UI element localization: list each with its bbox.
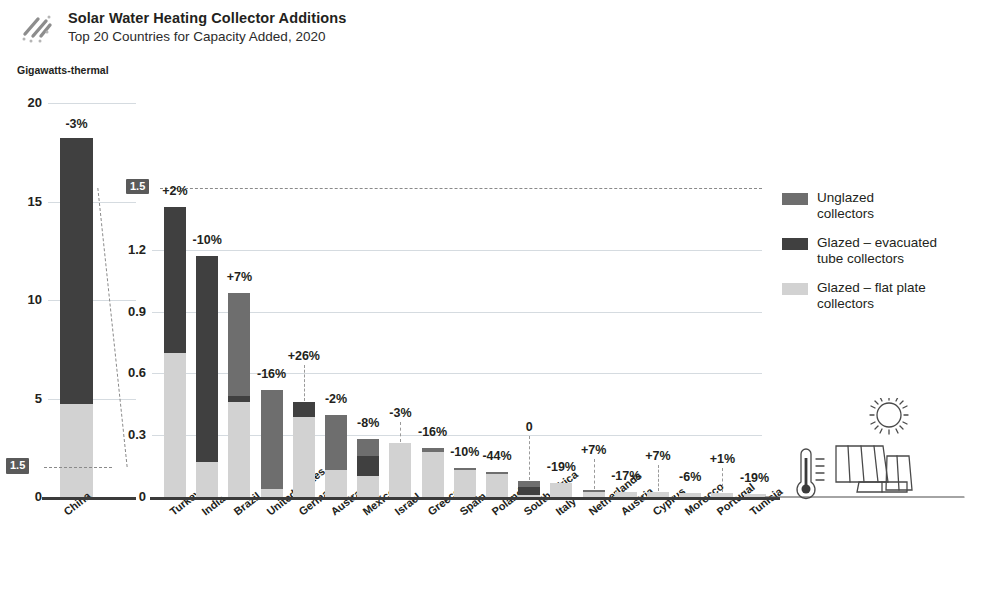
thermometer-icon bbox=[797, 449, 824, 498]
right-axis-tick-0.3: 0.3 bbox=[110, 428, 146, 441]
pct-label-china: -3% bbox=[56, 118, 97, 131]
bar-segment-unglazed bbox=[228, 293, 250, 396]
bar-segment-unglazed bbox=[486, 472, 508, 474]
right-gridline bbox=[152, 250, 762, 251]
legend-item-flatplate[interactable]: Glazed – flat platecollectors bbox=[782, 280, 977, 312]
bar-segment-evacuated bbox=[60, 138, 93, 404]
left-axis-tick-5: 5 bbox=[8, 392, 42, 405]
bar-segment-evacuated bbox=[196, 256, 218, 462]
pct-leader-line bbox=[722, 468, 723, 492]
bar-australia[interactable] bbox=[325, 415, 347, 497]
bar-turkey[interactable] bbox=[164, 207, 186, 497]
bar-spain[interactable] bbox=[454, 468, 476, 497]
bar-segment-flatplate bbox=[357, 476, 379, 497]
bar-israel[interactable] bbox=[389, 443, 411, 497]
bar-segment-flatplate bbox=[422, 452, 444, 497]
pct-label-cyprus: +7% bbox=[635, 450, 681, 463]
bar-segment-flatplate bbox=[389, 443, 411, 497]
bar-india[interactable] bbox=[196, 256, 218, 497]
right-axis-tick-1.2: 1.2 bbox=[110, 243, 146, 256]
bar-segment-unglazed bbox=[261, 390, 283, 489]
bar-segment-evacuated bbox=[518, 487, 540, 495]
bar-germany[interactable] bbox=[293, 402, 315, 497]
pct-label-morocco: -6% bbox=[667, 471, 713, 484]
legend-swatch-unglazed bbox=[782, 193, 808, 205]
right-top-dashed-line bbox=[160, 188, 762, 189]
pct-leader-line bbox=[529, 436, 530, 480]
pct-label-india: -10% bbox=[184, 234, 230, 247]
left-axis-tick-10: 10 bbox=[8, 293, 42, 306]
bar-greece[interactable] bbox=[422, 448, 444, 497]
bar-segment-evacuated bbox=[228, 396, 250, 402]
pct-leader-line bbox=[594, 459, 595, 489]
chart-legend: UnglazedcollectorsGlazed – evacuatedtube… bbox=[782, 190, 977, 325]
pct-label-turkey: +2% bbox=[152, 185, 198, 198]
bar-segment-flatplate bbox=[486, 474, 508, 497]
bar-segment-flatplate bbox=[325, 470, 347, 497]
left-axis-tick-0: 0 bbox=[8, 490, 42, 503]
bar-segment-flatplate bbox=[196, 462, 218, 497]
legend-swatch-evacuated bbox=[782, 238, 808, 250]
baseline-right bbox=[150, 497, 780, 500]
bar-segment-flatplate bbox=[228, 402, 250, 497]
bar-segment-evacuated bbox=[164, 207, 186, 353]
pct-label-israel: -3% bbox=[377, 407, 423, 420]
pct-label-austria: -17% bbox=[603, 470, 649, 483]
bar-segment-evacuated bbox=[293, 402, 315, 416]
legend-swatch-flatplate bbox=[782, 283, 808, 295]
bar-segment-unglazed bbox=[422, 448, 444, 452]
legend-item-evacuated[interactable]: Glazed – evacuatedtube collectors bbox=[782, 235, 977, 267]
pct-leader-line bbox=[304, 365, 305, 401]
bar-segment-flatplate bbox=[454, 470, 476, 497]
left-axis-tick-20: 20 bbox=[8, 96, 42, 109]
left-axis-marker-1-5: 1.5 bbox=[6, 458, 29, 473]
bar-segment-unglazed bbox=[357, 439, 379, 455]
bar-segment-unglazed bbox=[583, 490, 605, 493]
left-gridline bbox=[48, 103, 136, 104]
bar-segment-unglazed bbox=[454, 468, 476, 470]
bar-poland[interactable] bbox=[486, 472, 508, 497]
legend-item-unglazed[interactable]: Unglazedcollectors bbox=[782, 190, 977, 222]
right-axis-tick-0.9: 0.9 bbox=[110, 305, 146, 318]
pct-leader-line bbox=[658, 465, 659, 491]
bar-segment-unglazed bbox=[518, 481, 540, 487]
bar-mexico[interactable] bbox=[357, 439, 379, 497]
pct-label-australia: -2% bbox=[313, 393, 359, 406]
bar-segment-evacuated bbox=[357, 456, 379, 477]
pct-label-portugal: +1% bbox=[699, 453, 745, 466]
pct-label-brazil: +7% bbox=[216, 271, 262, 284]
pct-label-united-states: -16% bbox=[249, 368, 295, 381]
right-axis-marker-1-5: 1.5 bbox=[126, 179, 149, 194]
left-axis-tick-15: 15 bbox=[8, 195, 42, 208]
bar-segment-flatplate bbox=[164, 353, 186, 497]
bar-segment-unglazed bbox=[325, 415, 347, 471]
bar-segment-flatplate bbox=[293, 417, 315, 497]
pct-leader-line bbox=[400, 422, 401, 442]
pct-label-poland: -44% bbox=[474, 450, 520, 463]
axis-break-dash-connector bbox=[97, 188, 127, 467]
solar-collector-panels-icon bbox=[836, 446, 912, 492]
solar-illustration bbox=[758, 398, 973, 508]
chart-page: Solar Water Heating Collector Additions … bbox=[0, 0, 981, 604]
bar-brazil[interactable] bbox=[228, 293, 250, 497]
pct-label-greece: -16% bbox=[410, 426, 456, 439]
pct-label-germany: +26% bbox=[281, 350, 327, 363]
sun-icon bbox=[870, 398, 908, 434]
bar-china[interactable] bbox=[60, 138, 93, 497]
legend-label-unglazed: Unglazedcollectors bbox=[817, 190, 874, 222]
country-label-cyprus: Cyprus bbox=[651, 486, 688, 518]
pct-label-south-africa: 0 bbox=[506, 421, 552, 434]
axis-break-dash-left bbox=[44, 467, 112, 468]
right-axis-tick-0.6: 0.6 bbox=[110, 366, 146, 379]
pct-label-netherlands: +7% bbox=[571, 444, 617, 457]
legend-label-flatplate: Glazed – flat platecollectors bbox=[817, 280, 926, 312]
baseline-left bbox=[42, 497, 136, 500]
bar-united-states[interactable] bbox=[261, 390, 283, 497]
pct-label-italy: -19% bbox=[538, 461, 584, 474]
bar-segment-flatplate bbox=[60, 404, 93, 497]
legend-label-evacuated: Glazed – evacuatedtube collectors bbox=[817, 235, 937, 267]
